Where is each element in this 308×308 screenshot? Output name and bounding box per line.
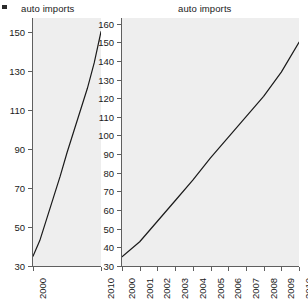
x-tick-label-left: 2000 bbox=[37, 278, 48, 299]
y-tick-label-right: 80 bbox=[88, 167, 114, 178]
y-tick-right bbox=[117, 229, 121, 230]
y-tick-label-right: 110 bbox=[88, 111, 114, 122]
x-tick-right bbox=[140, 267, 141, 271]
x-tick-label-right: 2009 bbox=[285, 278, 296, 299]
y-tick-label-right: 90 bbox=[88, 149, 114, 160]
figure-canvas: auto imports auto imports 30507090110130… bbox=[0, 0, 308, 308]
y-tick-right bbox=[117, 117, 121, 118]
y-tick-label-right: 70 bbox=[88, 186, 114, 197]
y-tick-label-right: 30 bbox=[88, 261, 114, 272]
x-tick-label-right: 2006 bbox=[232, 278, 243, 299]
x-tick-label-left: 2010 bbox=[105, 278, 116, 299]
y-tick-label-right: 120 bbox=[88, 93, 114, 104]
y-tick-label-left: 90 bbox=[0, 143, 25, 154]
y-tick-label-right: 60 bbox=[88, 205, 114, 216]
y-tick-left bbox=[28, 71, 32, 72]
y-tick-label-right: 40 bbox=[88, 242, 114, 253]
y-tick-label-left: 130 bbox=[0, 65, 25, 76]
x-tick-left bbox=[33, 267, 34, 271]
data-line-right bbox=[122, 18, 299, 266]
y-tick-label-right: 50 bbox=[88, 223, 114, 234]
plot-area-right bbox=[122, 18, 299, 266]
y-tick-left bbox=[28, 32, 32, 33]
x-tick-label-right: 2002 bbox=[161, 278, 172, 299]
y-tick-left bbox=[28, 110, 32, 111]
y-tick-label-right: 130 bbox=[88, 74, 114, 85]
y-tick-label-left: 110 bbox=[0, 104, 25, 115]
y-tick-label-right: 160 bbox=[88, 18, 114, 29]
x-tick-right bbox=[211, 267, 212, 271]
y-tick-right bbox=[117, 191, 121, 192]
chart-title-right: auto imports bbox=[178, 3, 231, 14]
y-tick-right bbox=[117, 210, 121, 211]
y-tick-right bbox=[117, 173, 121, 174]
x-tick-right bbox=[122, 267, 123, 271]
y-tick-left bbox=[28, 227, 32, 228]
x-tick-label-right: 2003 bbox=[179, 278, 190, 299]
y-tick-right bbox=[117, 61, 121, 62]
y-tick-label-left: 50 bbox=[0, 221, 25, 232]
y-tick-right bbox=[117, 247, 121, 248]
y-axis-line-right bbox=[121, 18, 122, 266]
x-tick-right bbox=[264, 267, 265, 271]
chart-title-left: auto imports bbox=[21, 3, 74, 14]
x-tick-right bbox=[299, 267, 300, 271]
x-tick-label-right: 2004 bbox=[197, 278, 208, 299]
x-tick-right bbox=[228, 267, 229, 271]
y-tick-label-right: 100 bbox=[88, 130, 114, 141]
y-tick-left bbox=[28, 266, 32, 267]
x-tick-right bbox=[157, 267, 158, 271]
y-tick-label-right: 140 bbox=[88, 55, 114, 66]
x-tick-label-right: 2001 bbox=[144, 278, 155, 299]
y-tick-right bbox=[117, 135, 121, 136]
y-tick-label-left: 30 bbox=[0, 261, 25, 272]
y-tick-left bbox=[28, 188, 32, 189]
y-axis-line-left bbox=[32, 18, 33, 266]
x-tick-right bbox=[246, 267, 247, 271]
x-tick-label-right: 2005 bbox=[215, 278, 226, 299]
y-tick-right bbox=[117, 154, 121, 155]
x-tick-right bbox=[281, 267, 282, 271]
y-tick-right bbox=[117, 42, 121, 43]
y-tick-label-right: 150 bbox=[88, 37, 114, 48]
y-tick-label-left: 70 bbox=[0, 182, 25, 193]
x-tick-label-right: 2000 bbox=[126, 278, 137, 299]
chart-panel-right: auto imports bbox=[112, 0, 308, 308]
x-tick-label-right: 2008 bbox=[268, 278, 279, 299]
y-tick-right bbox=[117, 98, 121, 99]
x-tick-label-right: 2010 bbox=[303, 278, 308, 299]
x-tick-label-right: 2007 bbox=[250, 278, 261, 299]
y-tick-left bbox=[28, 149, 32, 150]
x-tick-right bbox=[175, 267, 176, 271]
y-tick-right bbox=[117, 24, 121, 25]
y-tick-right bbox=[117, 266, 121, 267]
x-tick-right bbox=[193, 267, 194, 271]
x-axis-line-right bbox=[121, 266, 299, 267]
y-tick-label-left: 150 bbox=[0, 26, 25, 37]
y-tick-right bbox=[117, 80, 121, 81]
